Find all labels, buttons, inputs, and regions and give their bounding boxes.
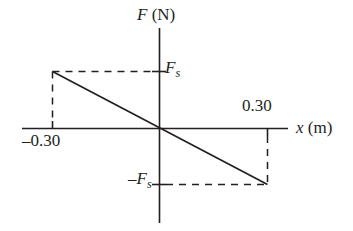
x-axis-title: x (m) [296, 119, 332, 136]
neg-fs-symbol: F [137, 169, 147, 188]
y-axis-symbol: F [137, 5, 147, 24]
y-axis-title: F (N) [137, 6, 175, 23]
x-tick-label-negative: –0.30 [22, 132, 60, 149]
figure-canvas: F (N) x (m) –0.30 0.30 Fs –Fs [0, 0, 353, 231]
y-tick-label-negative: –Fs [128, 170, 152, 187]
fs-subscript: s [175, 66, 180, 80]
x-axis-unit: (m) [308, 118, 333, 137]
y-axis-unit: (N) [152, 5, 176, 24]
fs-symbol: F [165, 58, 175, 77]
neg-fs-prefix: – [128, 169, 137, 188]
force-displacement-plot [0, 0, 353, 231]
x-tick-label-positive: 0.30 [242, 97, 272, 114]
neg-fs-subscript: s [147, 177, 152, 191]
y-tick-label-positive: Fs [165, 59, 180, 76]
x-axis-symbol: x [296, 118, 304, 137]
